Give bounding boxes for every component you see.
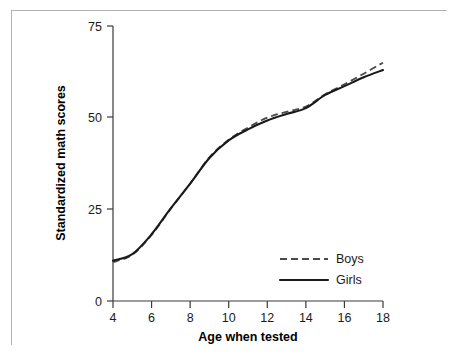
y-tick-label-50: 50 <box>88 111 102 125</box>
plot-background <box>12 11 448 346</box>
x-tick-label-4: 4 <box>110 311 117 325</box>
x-tick-label-14: 14 <box>299 311 313 325</box>
legend-label-boys: Boys <box>336 252 364 266</box>
legend-label-girls: Girls <box>336 273 362 287</box>
x-tick-label-8: 8 <box>187 311 194 325</box>
x-tick-label-12: 12 <box>260 311 274 325</box>
x-tick-label-10: 10 <box>222 311 236 325</box>
x-tick-label-16: 16 <box>337 311 351 325</box>
y-axis-title: Standardized math scores <box>54 85 68 241</box>
x-tick-label-18: 18 <box>376 311 390 325</box>
line-chart: 75 50 25 0 4 6 8 10 12 14 16 18 Age when… <box>12 11 448 346</box>
figure-frame: 75 50 25 0 4 6 8 10 12 14 16 18 Age when… <box>11 10 447 345</box>
x-tick-label-6: 6 <box>148 311 155 325</box>
y-tick-label-25: 25 <box>88 203 102 217</box>
x-axis-title: Age when tested <box>198 330 297 344</box>
y-tick-label-0: 0 <box>95 295 102 309</box>
y-tick-label-75: 75 <box>88 20 102 34</box>
